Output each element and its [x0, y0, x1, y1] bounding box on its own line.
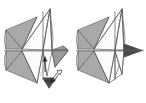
diagram-canvas	[0, 0, 146, 103]
panel-left-step	[4, 9, 68, 88]
push-in-arrow	[53, 70, 62, 80]
panel-right-step	[76, 9, 144, 83]
dark-bottom-flap	[43, 78, 56, 88]
origami-diagram	[0, 0, 146, 103]
lower-right-white-panel	[43, 51, 52, 76]
